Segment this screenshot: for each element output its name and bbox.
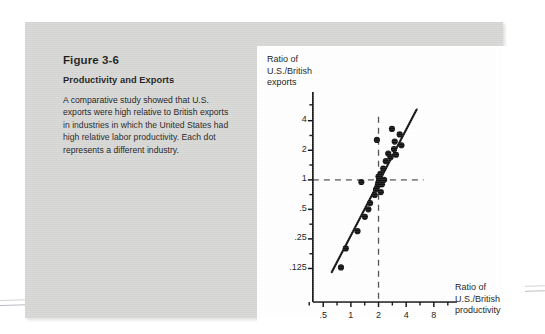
data-point [387,154,393,160]
data-point [338,264,344,270]
y-tick-label: 1 [279,173,307,183]
figure-subtitle: Productivity and Exports [63,75,233,85]
data-point [381,177,387,183]
data-point [392,139,398,145]
data-point [354,228,360,234]
data-point [397,131,403,137]
data-point [374,137,380,143]
data-point [398,142,404,148]
data-point [391,146,397,152]
chart-panel: Ratio of U.S./British exports Ratio of U… [257,46,525,333]
plot-svg [257,46,525,333]
y-tick-label: 2 [279,144,307,154]
figure-body-text: A comparative study showed that U.S. exp… [63,94,229,156]
axis-lines [313,92,457,302]
data-point [358,179,364,185]
x-tick-label: .5 [309,310,337,320]
x-tick-label: 1 [337,310,365,320]
x-tick-label: 8 [420,310,448,320]
data-point [377,171,383,177]
figure-container: Figure 3-6 Productivity and Exports A co… [25,22,503,318]
y-tick-label: .25 [279,232,307,242]
figure-number: Figure 3-6 [63,54,233,66]
data-point [380,166,386,172]
data-point [367,200,373,206]
data-point [372,192,378,198]
figure-caption: Figure 3-6 Productivity and Exports A co… [63,54,233,156]
x-tick-label: 2 [365,310,393,320]
data-point [362,214,368,220]
y-tick-label: 4 [279,114,307,124]
data-point [389,126,395,132]
data-point [378,189,384,195]
data-point [365,206,371,212]
x-tick-label: 4 [392,310,420,320]
data-point [343,245,349,251]
data-point [393,152,399,158]
axis-ticks [308,105,448,307]
y-tick-label: .5 [279,203,307,213]
y-tick-label: .125 [279,262,307,272]
scatter-plot: 421.5.25.125.51248 [257,46,525,333]
